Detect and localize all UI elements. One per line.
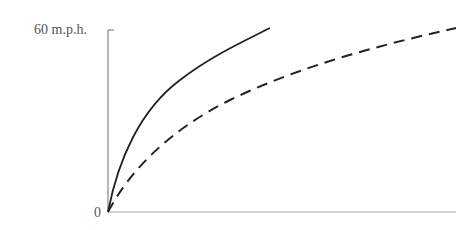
- y-top-label: 60 m.p.h.: [34, 22, 87, 37]
- chart: 60 m.p.h. 0: [0, 0, 476, 230]
- solid-curve: [108, 28, 270, 212]
- dashed-curve: [108, 28, 456, 212]
- origin-label: 0: [94, 205, 101, 220]
